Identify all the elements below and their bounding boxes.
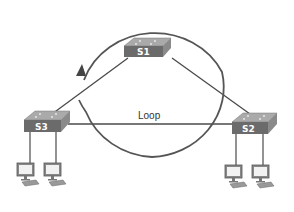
switch-s3[interactable]: S3 bbox=[24, 111, 70, 132]
host-s2-2[interactable] bbox=[252, 165, 274, 188]
host-s3-2[interactable] bbox=[44, 163, 66, 186]
switch-s2[interactable]: S2 bbox=[232, 113, 277, 134]
switch-s3-label: S3 bbox=[35, 122, 48, 132]
pc-icon bbox=[252, 165, 274, 188]
host-s2-1[interactable] bbox=[225, 165, 247, 188]
switch-s1-label: S1 bbox=[137, 47, 150, 57]
loop-label: Loop bbox=[138, 110, 161, 121]
switch-s2-label: S2 bbox=[242, 124, 255, 134]
pc-icon bbox=[225, 165, 247, 188]
network-loop-diagram: Loop S1 S3 S2 bbox=[0, 0, 294, 212]
pc-icon bbox=[17, 163, 39, 186]
pc-icon bbox=[44, 163, 66, 186]
arrow-head-icon bbox=[76, 64, 86, 76]
link-s1-s2 bbox=[172, 58, 250, 114]
host-s3-1[interactable] bbox=[17, 163, 39, 186]
switch-s1[interactable]: S1 bbox=[124, 38, 171, 57]
